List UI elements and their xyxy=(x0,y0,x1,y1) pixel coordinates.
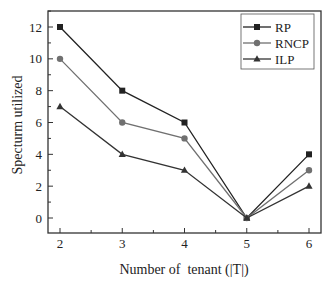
legend-marker-icon xyxy=(254,40,260,46)
x-tick-label: 4 xyxy=(181,236,188,251)
data-point-marker xyxy=(181,135,187,141)
y-axis: 024681012 xyxy=(29,11,53,225)
y-axis-title: Specturm utilized xyxy=(10,75,25,174)
x-axis: 23456 xyxy=(57,228,313,251)
legend-marker-icon xyxy=(254,24,260,30)
x-tick-label: 3 xyxy=(119,236,126,251)
y-tick-label: 12 xyxy=(29,20,42,35)
data-point-marker xyxy=(56,103,63,109)
y-tick-label: 10 xyxy=(29,51,42,66)
line-chart: 024681012 23456 Specturm utilized Number… xyxy=(0,0,331,289)
y-tick-label: 6 xyxy=(36,115,43,130)
series-rncp xyxy=(57,56,312,222)
data-point-marker xyxy=(119,151,126,157)
legend: RPRNCPILP xyxy=(241,14,314,69)
x-tick-label: 5 xyxy=(244,236,251,251)
y-tick-label: 0 xyxy=(36,211,43,226)
data-point-marker xyxy=(306,151,312,157)
data-point-marker xyxy=(119,88,125,94)
y-tick-label: 8 xyxy=(36,83,43,98)
legend-label: RP xyxy=(275,20,291,35)
x-axis-title: Number of tenant (|T|) xyxy=(119,262,249,278)
data-point-marker xyxy=(305,182,312,188)
x-tick-label: 6 xyxy=(306,236,313,251)
data-point-marker xyxy=(306,167,312,173)
y-tick-label: 4 xyxy=(36,147,43,162)
data-point-marker xyxy=(57,24,63,30)
data-point-marker xyxy=(182,120,188,126)
data-point-marker xyxy=(57,56,63,62)
legend-label: RNCP xyxy=(275,36,309,51)
data-point-marker xyxy=(119,119,125,125)
y-tick-label: 2 xyxy=(36,179,43,194)
legend-label: ILP xyxy=(275,52,295,67)
x-tick-label: 2 xyxy=(57,236,64,251)
